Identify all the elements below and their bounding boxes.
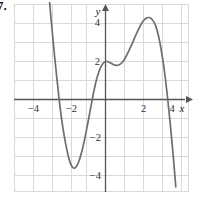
y-axis-arrowhead: [102, 4, 109, 11]
y-tick-label-neg2: −2: [90, 132, 101, 143]
graph-figure: 7.: [0, 0, 200, 199]
y-axis-label: y: [95, 5, 101, 17]
coordinate-plane: −4 −2 2 4 4 2 −2 −4 x y: [0, 0, 200, 199]
y-tick-label-pos2: 2: [95, 56, 100, 67]
x-tick-label-pos4: 4: [169, 103, 175, 114]
grid-lines: [14, 4, 189, 192]
x-axis-label: x: [179, 102, 185, 114]
y-tick-label-pos4: 4: [95, 17, 101, 28]
x-tick-label-pos2: 2: [141, 103, 146, 114]
x-axis-arrowhead: [186, 96, 193, 103]
function-curve: [50, 3, 176, 187]
y-tick-label-neg4: −4: [90, 170, 102, 181]
x-tick-label-neg4: −4: [28, 103, 40, 114]
x-tick-label-neg2: −2: [66, 103, 77, 114]
